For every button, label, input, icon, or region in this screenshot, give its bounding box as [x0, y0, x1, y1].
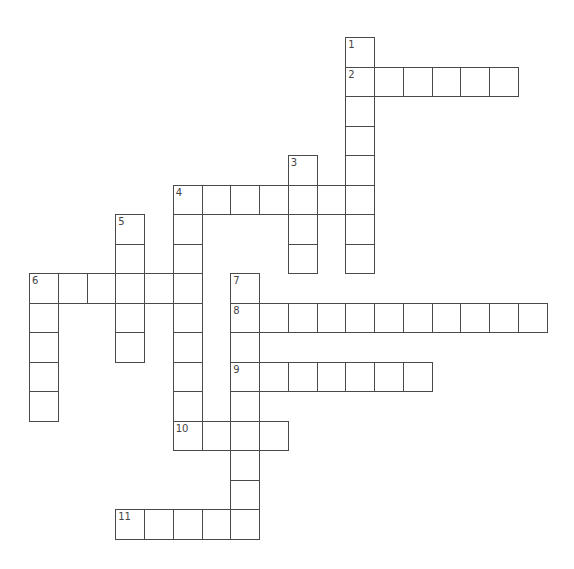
- crossword-cell[interactable]: [345, 303, 375, 334]
- crossword-cell[interactable]: [202, 421, 232, 452]
- crossword-cell[interactable]: [345, 214, 375, 245]
- crossword-cell[interactable]: [29, 332, 59, 363]
- crossword-cell[interactable]: [259, 185, 289, 216]
- crossword-cell[interactable]: [345, 126, 375, 157]
- crossword-cell[interactable]: [317, 185, 347, 216]
- crossword-cell[interactable]: [115, 273, 145, 304]
- crossword-cell[interactable]: [173, 362, 203, 393]
- clue-number: 6: [32, 275, 38, 286]
- crossword-cell[interactable]: 10: [173, 421, 203, 452]
- crossword-cell[interactable]: [489, 67, 519, 98]
- crossword-cell[interactable]: [173, 244, 203, 275]
- crossword-cell[interactable]: [345, 155, 375, 186]
- crossword-cell[interactable]: [202, 509, 232, 540]
- crossword-cell[interactable]: [374, 362, 404, 393]
- clue-number: 5: [118, 216, 124, 227]
- clue-number: 10: [176, 423, 189, 434]
- crossword-cell[interactable]: [432, 303, 462, 334]
- crossword-cell[interactable]: [460, 303, 490, 334]
- clue-number: 2: [348, 69, 354, 80]
- clue-number: 1: [348, 39, 354, 50]
- crossword-cell[interactable]: [29, 303, 59, 334]
- crossword-cell[interactable]: [345, 96, 375, 127]
- crossword-cell[interactable]: 9: [230, 362, 260, 393]
- crossword-cell[interactable]: [173, 391, 203, 422]
- crossword-cell[interactable]: 6: [29, 273, 59, 304]
- crossword-cell[interactable]: [432, 67, 462, 98]
- crossword-cell[interactable]: [518, 303, 548, 334]
- crossword-cell[interactable]: [345, 244, 375, 275]
- clue-number: 11: [118, 511, 131, 522]
- crossword-cell[interactable]: [202, 185, 232, 216]
- crossword-cell[interactable]: 5: [115, 214, 145, 245]
- crossword-cell[interactable]: [345, 362, 375, 393]
- crossword-cell[interactable]: [345, 185, 375, 216]
- crossword-cell[interactable]: [259, 303, 289, 334]
- crossword-cell[interactable]: [403, 303, 433, 334]
- crossword-cell[interactable]: [29, 391, 59, 422]
- crossword-cell[interactable]: [259, 421, 289, 452]
- crossword-cell[interactable]: [29, 362, 59, 393]
- crossword-cell[interactable]: [173, 214, 203, 245]
- crossword-cell[interactable]: [144, 273, 174, 304]
- clue-number: 7: [233, 275, 239, 286]
- crossword-cell[interactable]: [230, 450, 260, 481]
- crossword-cell[interactable]: [288, 185, 318, 216]
- crossword-cell[interactable]: [288, 303, 318, 334]
- crossword-cell[interactable]: [403, 67, 433, 98]
- crossword-cell[interactable]: 11: [115, 509, 145, 540]
- crossword-cell[interactable]: [374, 303, 404, 334]
- crossword-cell[interactable]: [288, 362, 318, 393]
- crossword-grid: 1234105678911: [0, 0, 574, 569]
- crossword-cell[interactable]: 2: [345, 67, 375, 98]
- crossword-cell[interactable]: [173, 273, 203, 304]
- crossword-cell[interactable]: [230, 332, 260, 363]
- crossword-cell[interactable]: 4: [173, 185, 203, 216]
- crossword-cell[interactable]: 8: [230, 303, 260, 334]
- crossword-cell[interactable]: [115, 332, 145, 363]
- crossword-cell[interactable]: [173, 303, 203, 334]
- clue-number: 3: [291, 157, 297, 168]
- clue-number: 8: [233, 305, 239, 316]
- crossword-cell[interactable]: [288, 244, 318, 275]
- clue-number: 9: [233, 364, 239, 375]
- crossword-cell[interactable]: [230, 185, 260, 216]
- crossword-cell[interactable]: [259, 362, 289, 393]
- crossword-cell[interactable]: [173, 509, 203, 540]
- crossword-cell[interactable]: [115, 244, 145, 275]
- crossword-cell[interactable]: 3: [288, 155, 318, 186]
- crossword-cell[interactable]: [144, 509, 174, 540]
- crossword-cell[interactable]: [173, 332, 203, 363]
- crossword-cell[interactable]: [489, 303, 519, 334]
- crossword-cell[interactable]: [317, 303, 347, 334]
- crossword-cell[interactable]: [58, 273, 88, 304]
- crossword-cell[interactable]: [115, 303, 145, 334]
- crossword-cell[interactable]: [230, 480, 260, 511]
- crossword-cell[interactable]: [317, 362, 347, 393]
- crossword-cell[interactable]: [288, 214, 318, 245]
- crossword-cell[interactable]: [230, 421, 260, 452]
- crossword-cell[interactable]: [230, 391, 260, 422]
- crossword-cell[interactable]: [374, 67, 404, 98]
- crossword-cell[interactable]: [87, 273, 117, 304]
- crossword-cell[interactable]: 7: [230, 273, 260, 304]
- crossword-cell[interactable]: [403, 362, 433, 393]
- crossword-cell[interactable]: [230, 509, 260, 540]
- clue-number: 4: [176, 187, 182, 198]
- crossword-cell[interactable]: [460, 67, 490, 98]
- crossword-cell[interactable]: 1: [345, 37, 375, 68]
